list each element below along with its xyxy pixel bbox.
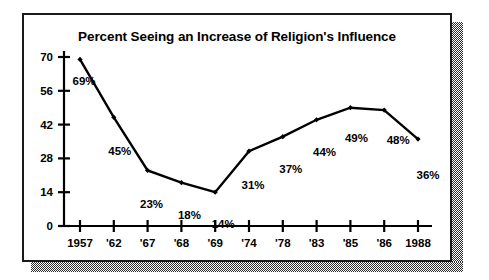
- data-point-label: 49%: [345, 132, 368, 144]
- x-axis-tick-label: '74: [241, 237, 257, 249]
- chart-frame: Percent Seeing an Increase of Religion's…: [22, 13, 452, 262]
- chart-figure: Percent Seeing an Increase of Religion's…: [0, 0, 489, 280]
- plot-area: 01428425670 1957'62'67'68'69'74'78'83'85…: [24, 15, 454, 264]
- x-axis-tick-label: '86: [376, 237, 392, 249]
- y-axis-tick-label: 42: [24, 119, 53, 131]
- y-axis-tick-label: 56: [24, 85, 53, 97]
- y-axis-tick-label: 70: [24, 51, 53, 63]
- x-axis-tick-label: '69: [207, 237, 223, 249]
- data-point-label: 37%: [279, 163, 302, 175]
- data-point-label: 48%: [387, 134, 410, 146]
- data-point-label: 23%: [140, 198, 163, 210]
- y-axis-tick-label: 28: [24, 152, 53, 164]
- x-axis-tick-label: '83: [309, 237, 325, 249]
- x-axis-tick-label: '85: [343, 237, 359, 249]
- data-point-label: 44%: [313, 146, 336, 158]
- y-axis-tick-label: 0: [24, 220, 53, 232]
- y-axis-tick-label: 14: [24, 186, 53, 198]
- data-point-label: 36%: [416, 169, 439, 181]
- series-group: [80, 59, 418, 192]
- data-point-label: 69%: [72, 75, 95, 87]
- x-axis-tick-label: '78: [275, 237, 291, 249]
- markers-group: [77, 57, 420, 195]
- data-line: [80, 59, 418, 192]
- x-axis-tick-label: 1988: [405, 237, 431, 249]
- x-axis-tick-label: 1957: [67, 237, 93, 249]
- data-point-label: 18%: [178, 209, 201, 221]
- x-axis-tick-label: '62: [106, 237, 122, 249]
- data-point-label: 45%: [108, 145, 131, 157]
- data-point-label: 31%: [241, 179, 264, 191]
- axes-group: [58, 51, 432, 232]
- x-axis-tick-label: '68: [174, 237, 190, 249]
- data-point-label: 14%: [212, 218, 235, 230]
- x-axis-tick-label: '67: [140, 237, 156, 249]
